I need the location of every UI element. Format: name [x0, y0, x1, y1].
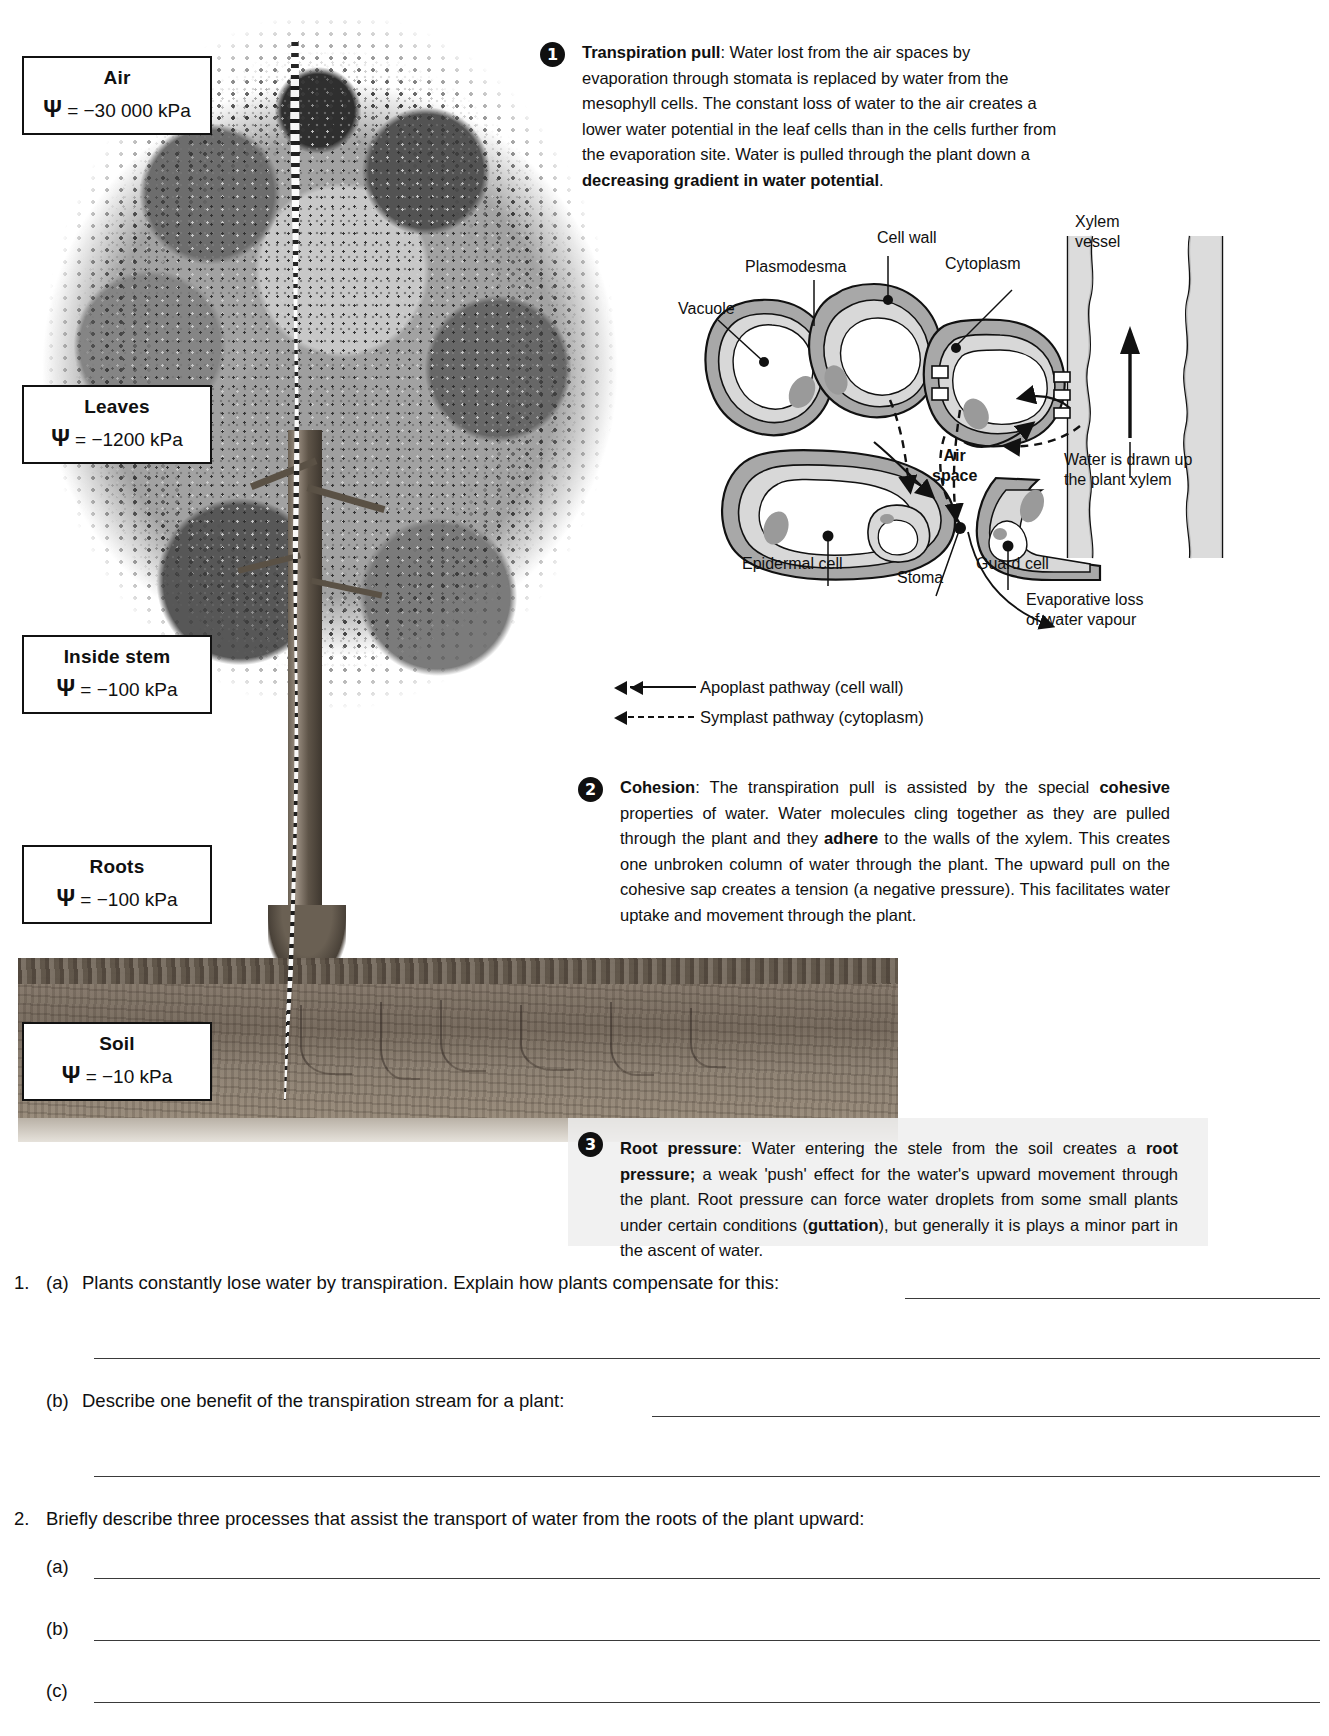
mesophyll-cell-2 — [809, 284, 941, 417]
question-2: 2. Briefly describe three processes that… — [0, 1508, 1329, 1556]
answer-line-1a-1[interactable] — [905, 1298, 1320, 1299]
box-value-text: = −10 kPa — [86, 1066, 173, 1087]
cohesion-block: 2 Cohesion: The transpiration pull is as… — [578, 775, 1170, 929]
root-pressure-text: Root pressure: Water entering the stele … — [620, 1136, 1178, 1264]
root — [610, 1002, 654, 1076]
box-value-air: Ψ = −30 000 kPa — [28, 98, 206, 122]
leaf-cell-diagram: Cell wall Cytoplasm Plasmodesma Vacuole … — [660, 228, 1329, 673]
box-value-text: = −1200 kPa — [75, 429, 183, 450]
question-1a-label: (a) — [46, 1272, 69, 1294]
water-column-dashes — [284, 35, 306, 1100]
question-1: 1. (a) Plants constantly lose water by t… — [0, 1272, 1329, 1390]
label-guard-cell: Guard cell — [976, 554, 1049, 574]
psi-symbol: Ψ — [43, 96, 62, 122]
box-title-air: Air — [28, 67, 206, 89]
question-2a: (a) — [0, 1556, 1329, 1618]
label-water-drawn-up: Water is drawn up the plant xylem — [1064, 450, 1192, 490]
upward-water-arrow — [1120, 326, 1140, 438]
label-xylem-vessel: Xylem vessel — [1075, 212, 1120, 252]
question-1b-text: Describe one benefit of the transpiratio… — [82, 1390, 564, 1412]
question-2b: (b) — [0, 1618, 1329, 1680]
question-2c-label: (c) — [46, 1680, 68, 1702]
question-2b-label: (b) — [46, 1618, 69, 1640]
psi-symbol: Ψ — [62, 1062, 81, 1088]
answer-line-1b-2[interactable] — [94, 1476, 1320, 1477]
question-1b-label: (b) — [46, 1390, 69, 1412]
question-1a-text: Plants constantly lose water by transpir… — [82, 1272, 779, 1294]
label-air-space-line1: Air — [944, 447, 966, 464]
root — [520, 1005, 574, 1071]
label-air-space: Air space — [932, 446, 977, 486]
root-pressure-block: 3 Root pressure: Water entering the stel… — [578, 1130, 1188, 1274]
soil-surface — [18, 958, 898, 984]
step-number-badge-3: 3 — [578, 1132, 603, 1157]
questions-section: 1. (a) Plants constantly lose water by t… — [0, 1272, 1329, 1736]
pathway-legend: Apoplast pathway (cell wall) Symplast pa… — [608, 672, 1038, 732]
water-potential-box-air: Air Ψ = −30 000 kPa — [22, 56, 212, 135]
water-potential-box-inside-stem: Inside stem Ψ = −100 kPa — [22, 635, 212, 714]
cell-diagram-svg — [660, 228, 1329, 673]
water-column-pathway — [284, 35, 306, 1100]
label-evaporative-line2: of water vapour — [1026, 611, 1136, 628]
xylem-vessel-left-shape — [1068, 236, 1092, 558]
psi-symbol: Ψ — [56, 885, 75, 911]
legend-label-symplast: Symplast pathway (cytoplasm) — [700, 708, 924, 727]
label-vacuole: Vacuole — [678, 299, 735, 319]
psi-symbol: Ψ — [51, 425, 70, 451]
box-value-text: = −100 kPa — [80, 679, 177, 700]
box-title-leaves: Leaves — [28, 396, 206, 418]
psi-symbol: Ψ — [56, 675, 75, 701]
answer-line-1b-1[interactable] — [652, 1416, 1320, 1417]
label-cell-wall: Cell wall — [877, 228, 937, 248]
label-xylem-vessel-line2: vessel — [1075, 233, 1120, 250]
mesophyll-cell-3 — [924, 320, 1070, 447]
water-potential-box-roots: Roots Ψ = −100 kPa — [22, 845, 212, 924]
root — [690, 1008, 726, 1068]
step-number-badge-1: 1 — [540, 42, 565, 67]
water-potential-box-leaves: Leaves Ψ = −1200 kPa — [22, 385, 212, 464]
legend-label-apoplast: Apoplast pathway (cell wall) — [700, 678, 904, 697]
legend-row-apoplast: Apoplast pathway (cell wall) — [608, 672, 1038, 702]
box-value-stem: Ψ = −100 kPa — [28, 677, 206, 701]
label-evaporative-loss: Evaporative loss of water vapour — [1026, 590, 1143, 630]
box-title-roots: Roots — [28, 856, 206, 878]
box-title-soil: Soil — [28, 1033, 206, 1055]
legend-row-symplast: Symplast pathway (cytoplasm) — [608, 702, 1038, 732]
step-number-badge-2: 2 — [578, 777, 603, 802]
cohesion-text: Cohesion: The transpiration pull is assi… — [620, 775, 1170, 929]
box-value-roots: Ψ = −100 kPa — [28, 887, 206, 911]
answer-line-2a[interactable] — [94, 1578, 1320, 1579]
question-2c: (c) — [0, 1680, 1329, 1736]
label-water-drawn-line2: the plant xylem — [1064, 471, 1172, 488]
cytoplasm-dot — [951, 343, 961, 353]
label-xylem-vessel-line1: Xylem — [1075, 213, 1119, 230]
root — [440, 1000, 486, 1072]
question-1-number: 1. — [14, 1272, 29, 1294]
answer-line-1a-2[interactable] — [94, 1358, 1320, 1359]
root — [380, 1002, 420, 1080]
label-stoma: Stoma — [897, 568, 943, 588]
label-epidermal-cell: Epidermal cell — [742, 554, 842, 574]
label-plasmodesma: Plasmodesma — [745, 257, 846, 277]
answer-line-2b[interactable] — [94, 1640, 1320, 1641]
label-air-space-line2: space — [932, 467, 977, 484]
root — [300, 1005, 352, 1075]
box-value-text: = −30 000 kPa — [67, 100, 191, 121]
question-2-number: 2. — [14, 1508, 29, 1530]
label-cytoplasm: Cytoplasm — [945, 254, 1021, 274]
box-value-text: = −100 kPa — [80, 889, 177, 910]
answer-line-2c[interactable] — [94, 1702, 1320, 1703]
box-value-soil: Ψ = −10 kPa — [28, 1064, 206, 1088]
transpiration-pull-text: Transpiration pull: Water lost from the … — [582, 40, 1060, 194]
question-2-text: Briefly describe three processes that as… — [46, 1508, 865, 1530]
apoplast-arrow-icon — [608, 679, 700, 695]
label-evaporative-line1: Evaporative loss — [1026, 591, 1143, 608]
xylem-vessel-right-shape — [1184, 236, 1222, 558]
label-water-drawn-line1: Water is drawn up — [1064, 451, 1192, 468]
transpiration-pull-block: 1 Transpiration pull: Water lost from th… — [540, 40, 1060, 194]
question-2a-label: (a) — [46, 1556, 69, 1578]
box-value-leaves: Ψ = −1200 kPa — [28, 427, 206, 451]
box-title-stem: Inside stem — [28, 646, 206, 668]
symplast-arrow-icon — [608, 709, 700, 725]
question-1b: (b) Describe one benefit of the transpir… — [0, 1390, 1329, 1508]
